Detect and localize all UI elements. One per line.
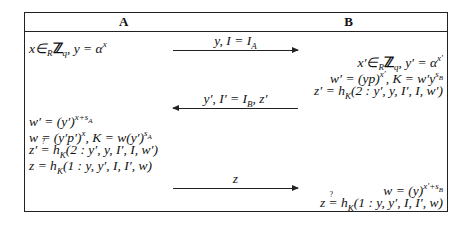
protocol-table: A B x∈Rℤq, y = αx y, I = IA x′∈Rℤq, y′ =… xyxy=(24,12,448,212)
b-step-mac: z′ = hK(2 : y′, y, I′, I, w′) xyxy=(314,83,443,104)
party-a-header: A xyxy=(119,14,128,30)
a-step-keygen: x∈Rℤq, y = αx xyxy=(29,37,107,61)
header-row: A B xyxy=(25,13,447,32)
arrow-left-icon xyxy=(173,108,298,109)
b-step-verify: z =? hK(1 : y, y′, I, I′, w) xyxy=(320,195,443,216)
a-step-mac: z = hK(1 : y, y′, I, I′, w) xyxy=(29,158,152,179)
party-b-header: B xyxy=(344,14,353,30)
message-3-label: z xyxy=(173,171,298,187)
message-1-label: y, I = IA xyxy=(173,33,298,51)
arrow-right-icon xyxy=(173,188,298,189)
message-2-label: y′, I′ = IB, z′ xyxy=(173,91,298,109)
arrow-right-icon xyxy=(173,50,298,51)
